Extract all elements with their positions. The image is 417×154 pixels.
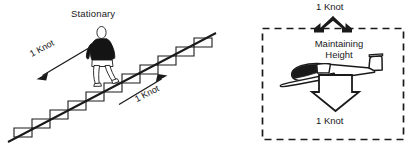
arrow-down-left-icon (37, 49, 89, 81)
walking-person-icon (86, 27, 119, 87)
sink-rate-label: 1 Knot (316, 116, 343, 127)
chevron-up-double-arrow-icon (314, 16, 352, 33)
diagram-canvas: Stationary 1 Knot 1 Knot 1 Knot Maintain… (0, 0, 417, 154)
rising-air-speed-label: 1 Knot (316, 2, 343, 13)
arrow-down-icon (312, 75, 359, 111)
maintaining-height-label: MaintainingHeight (304, 39, 374, 61)
stationary-label: Stationary (71, 9, 115, 20)
diagram-vector-layer (0, 0, 417, 154)
maintaining-height-line1: Maintaining (315, 38, 364, 49)
maintaining-height-line2: Height (325, 49, 352, 60)
